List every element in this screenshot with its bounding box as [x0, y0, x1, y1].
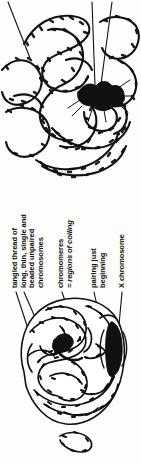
label-layer: tangled thread of long, thin, single and…	[0, 0, 141, 466]
label-line: chromosomes	[37, 214, 46, 288]
label-chromomeres: chromomeres = regions of coiling	[57, 220, 74, 288]
label-line: X chromosome	[118, 234, 127, 288]
label-line-italic: = regions of coiling	[66, 220, 75, 288]
label-x-chromosome: X chromosome	[118, 234, 127, 288]
label-tangled-thread: tangled thread of long, thin, single and…	[11, 214, 45, 288]
label-line: beginning	[99, 248, 108, 288]
label-pairing-just-beginning: pairing just beginning	[90, 248, 107, 288]
